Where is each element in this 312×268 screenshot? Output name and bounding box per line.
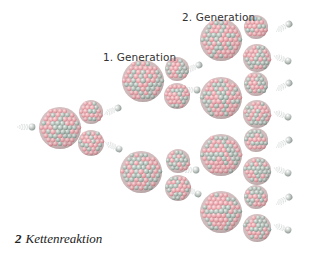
chain-reaction-diagram: 1. Generation 2. Generation 2Kettenreakt…	[0, 0, 312, 268]
neutron	[273, 222, 293, 235]
neutron	[17, 124, 35, 131]
nucleus-fragment	[243, 157, 271, 185]
nucleus-heavy	[39, 107, 81, 149]
nucleus-heavy	[200, 19, 242, 61]
nucleus-fragment	[243, 44, 271, 72]
neutron	[273, 109, 293, 122]
nucleus-heavy	[120, 151, 162, 193]
nucleus-heavy	[200, 191, 242, 233]
nuclei	[39, 15, 271, 242]
generation-1-label: 1. Generation	[103, 51, 176, 63]
neutron	[104, 140, 124, 154]
neutron	[273, 53, 293, 66]
nucleus-fragment	[164, 83, 190, 109]
neutron	[273, 165, 293, 178]
nucleus-fragment	[244, 72, 268, 96]
nucleus-heavy	[200, 134, 243, 176]
neutron	[274, 192, 293, 207]
nucleus-fragment	[78, 130, 104, 156]
nucleus-fragment	[244, 185, 268, 209]
nucleus-heavy	[122, 60, 164, 102]
nucleus-fragment	[244, 128, 268, 152]
figure-caption: 2Kettenreaktion	[15, 231, 102, 247]
nucleus-fragment	[165, 175, 191, 201]
neutron	[274, 135, 293, 150]
nucleus-fragment	[243, 100, 271, 128]
caption-number: 2	[15, 231, 22, 246]
neutron	[274, 78, 293, 93]
nucleus-heavy	[200, 77, 242, 119]
nucleus-fragment	[79, 100, 103, 124]
caption-text: Kettenreaktion	[26, 231, 103, 246]
neutron	[103, 103, 123, 117]
generation-2-label: 2. Generation	[182, 11, 255, 23]
nucleus-fragment	[166, 149, 190, 173]
chain-reaction-illustration	[0, 0, 312, 268]
nucleus-fragment	[243, 214, 271, 242]
neutron	[274, 19, 293, 34]
